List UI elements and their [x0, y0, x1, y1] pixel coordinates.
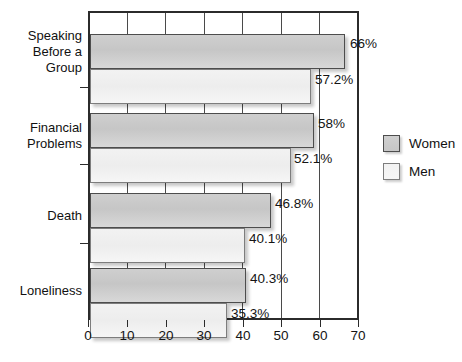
- bar-death-women: [90, 193, 271, 228]
- category-tick-1: [80, 87, 88, 88]
- category-tick-2: [80, 164, 88, 165]
- x-tick-label-70: 70: [343, 329, 373, 344]
- x-tick-0: [88, 320, 89, 327]
- legend-item-men: Men: [383, 157, 459, 185]
- x-tick-60: [320, 320, 321, 327]
- value-label-death-women: 46.8%: [275, 197, 313, 211]
- value-label-financial-women: 58%: [318, 117, 345, 131]
- bar-financial-women: [90, 113, 314, 148]
- x-tick-label-60: 60: [305, 329, 335, 344]
- value-label-speaking-men: 57.2%: [315, 73, 353, 87]
- bar-financial-men: [90, 148, 291, 183]
- x-tick-20: [166, 320, 167, 327]
- category-label-financial: Financial Problems: [0, 120, 82, 152]
- x-tick-label-20: 20: [151, 329, 181, 344]
- category-label-loneliness: Loneliness: [0, 283, 82, 299]
- bar-chart: Speaking Before a Group Financial Proble…: [0, 0, 462, 362]
- category-tick-3: [80, 243, 88, 244]
- x-tick-label-50: 50: [266, 329, 296, 344]
- bar-speaking-men: [90, 69, 311, 104]
- x-tick-label-30: 30: [189, 329, 219, 344]
- value-label-loneliness-men: 35.3%: [231, 307, 269, 321]
- value-label-speaking-women: 66%: [350, 37, 377, 51]
- x-tick-10: [127, 320, 128, 327]
- x-tick-30: [204, 320, 205, 327]
- x-tick-50: [281, 320, 282, 327]
- category-label-death: Death: [0, 208, 82, 224]
- value-label-financial-men: 52.1%: [294, 152, 332, 166]
- bar-loneliness-women: [90, 268, 246, 303]
- legend-item-women: Women: [383, 129, 459, 157]
- legend-label-men: Men: [409, 164, 435, 179]
- value-label-loneliness-women: 40.3%: [250, 272, 288, 286]
- legend-label-women: Women: [409, 136, 455, 151]
- legend: Women Men: [383, 129, 459, 185]
- legend-swatch-men-icon: [383, 163, 400, 180]
- y-axis-category-labels: Speaking Before a Group Financial Proble…: [0, 0, 82, 362]
- x-tick-40: [243, 320, 244, 327]
- bar-speaking-women: [90, 34, 345, 69]
- legend-swatch-women-icon: [383, 135, 400, 152]
- bar-death-men: [90, 228, 245, 263]
- x-tick-label-0: 0: [73, 329, 103, 344]
- x-tick-label-40: 40: [228, 329, 258, 344]
- x-tick-70: [358, 320, 359, 327]
- x-tick-label-10: 10: [112, 329, 142, 344]
- category-label-speaking: Speaking Before a Group: [0, 28, 82, 76]
- value-label-death-men: 40.1%: [249, 232, 287, 246]
